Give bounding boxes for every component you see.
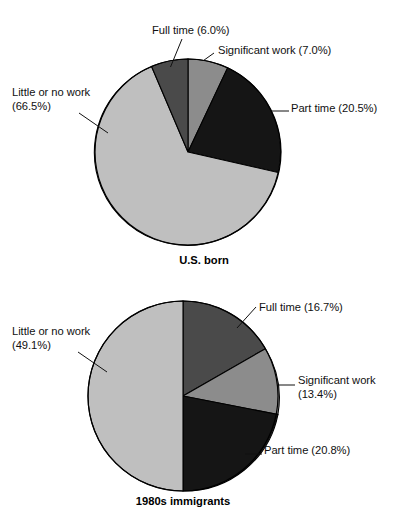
leader-significant-work-us-born (204, 53, 215, 61)
label-part-time-us-born: Part time (20.5%) (291, 102, 377, 116)
label-significant-work-us-born: Significant work (7.0%) (218, 44, 331, 58)
slice-little-or-no-work-1980s-immigrants[interactable] (88, 301, 183, 491)
label-full-time-1980s-immigrants: Full time (16.7%) (259, 301, 343, 315)
label-full-time-us-born: Full time (6.0%) (152, 24, 230, 38)
chart-title-us-born: U.S. born (144, 254, 264, 266)
label-significant-work-1980s-immigrants: Significant work (13.4%) (298, 374, 376, 401)
pie-chart-figure: Full time (6.0%) Significant work (7.0%)… (0, 0, 408, 527)
label-little-or-no-work-1980s-immigrants: Little or no work (49.1%) (12, 325, 90, 352)
pie-1980s-immigrants (88, 301, 279, 491)
chart-title-1980s-immigrants: 1980s immigrants (123, 495, 243, 507)
label-little-or-no-work-us-born: Little or no work (66.5%) (12, 86, 90, 113)
pie-us-born (94, 59, 281, 245)
label-part-time-1980s-immigrants: Part time (20.8%) (264, 444, 350, 458)
